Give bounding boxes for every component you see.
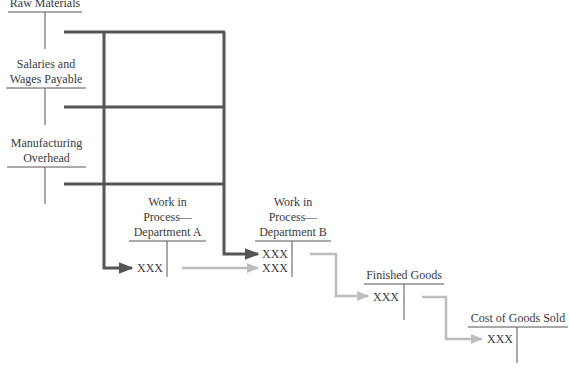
title-line: Finished Goods bbox=[364, 268, 444, 283]
account-title-finished-goods: Finished Goods bbox=[364, 268, 444, 283]
wip-b-debit-amount-1: XXX bbox=[262, 247, 288, 261]
account-title-wip-dept-b: Work in Process— Department B bbox=[255, 195, 331, 240]
title-line: Cost of Goods Sold bbox=[468, 311, 568, 326]
finished-goods-debit-amount: XXX bbox=[373, 290, 399, 304]
cogs-debit-amount: XXX bbox=[487, 332, 513, 346]
wip-b-debit-amount-2: XXX bbox=[262, 261, 288, 275]
title-line: Process— bbox=[255, 210, 331, 225]
title-line: Wages Payable bbox=[6, 72, 86, 87]
account-title-cost-of-goods-sold: Cost of Goods Sold bbox=[468, 311, 568, 326]
title-line: Overhead bbox=[7, 151, 86, 166]
title-line: Work in bbox=[255, 195, 331, 210]
account-title-wip-dept-a: Work in Process— Department A bbox=[129, 195, 206, 240]
light-flow-arrows bbox=[182, 254, 482, 339]
title-line: Department B bbox=[255, 225, 331, 240]
title-line: Raw Materials bbox=[8, 0, 82, 11]
title-line: Manufacturing bbox=[7, 136, 86, 151]
title-line: Salaries and bbox=[6, 57, 86, 72]
wip-a-debit-amount: XXX bbox=[137, 261, 163, 275]
account-title-manufacturing-overhead: Manufacturing Overhead bbox=[7, 136, 86, 166]
title-line: Department A bbox=[129, 225, 206, 240]
title-line: Process— bbox=[129, 210, 206, 225]
account-title-salaries-wages-payable: Salaries and Wages Payable bbox=[6, 57, 86, 87]
account-title-raw-materials: Raw Materials bbox=[8, 0, 82, 11]
title-line: Work in bbox=[129, 195, 206, 210]
